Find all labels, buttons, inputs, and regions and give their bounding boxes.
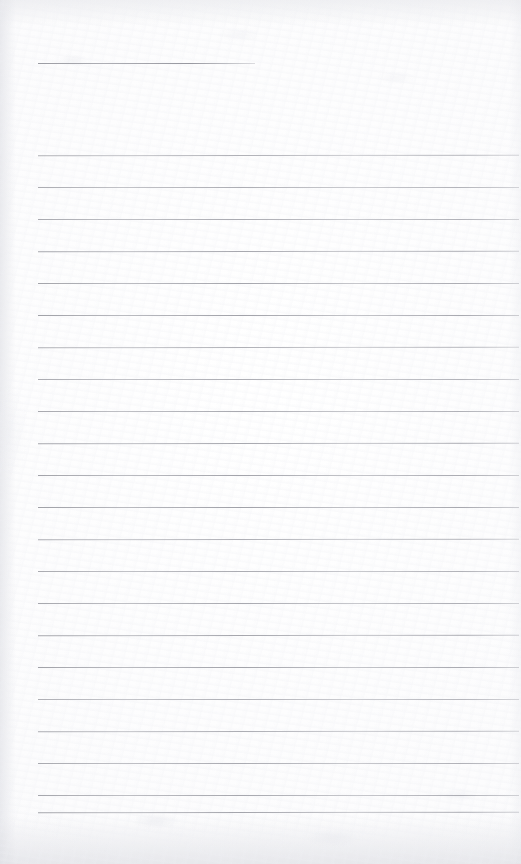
ruled-line [38, 187, 519, 188]
ruled-line [38, 379, 519, 380]
ruled-line [38, 475, 519, 476]
ruled-line [38, 731, 519, 732]
header-short-rule [38, 63, 255, 64]
ruled-line [38, 155, 519, 156]
ruled-line [38, 283, 519, 284]
ruled-line [38, 251, 519, 252]
ruled-line [38, 635, 519, 636]
ruled-line [38, 699, 519, 700]
ruled-line [38, 812, 519, 813]
scan-mottling-overlay [0, 0, 521, 864]
ruled-line [38, 411, 519, 412]
ruled-line [38, 571, 519, 572]
ruled-line [38, 219, 519, 220]
ruled-line [38, 667, 519, 668]
ruled-line [38, 443, 519, 444]
ruled-line [38, 795, 519, 796]
ruled-line [38, 603, 519, 604]
ruled-line [38, 507, 519, 508]
ruled-line [38, 315, 519, 316]
paper-texture-overlay [0, 0, 521, 864]
ruled-line [38, 347, 519, 348]
ruled-line [38, 539, 519, 540]
scanned-page [0, 0, 521, 864]
ruled-line [38, 763, 519, 764]
